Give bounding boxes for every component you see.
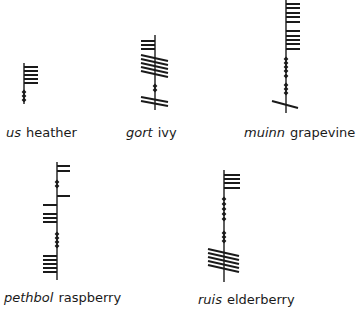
label-pethbol: pethbolraspberry <box>4 290 121 305</box>
ogham-name: ruis <box>198 292 222 307</box>
glyph-us-vowels <box>22 89 27 102</box>
gloss: raspberry <box>58 290 121 305</box>
glyph-ruis <box>208 170 240 282</box>
label-us: usheather <box>6 125 77 140</box>
glyph-us <box>24 63 38 104</box>
label-gort: gortivy <box>126 125 177 140</box>
gloss: heather <box>26 125 77 140</box>
label-muinn: muinngrapevine <box>244 125 355 140</box>
ogham-glyphs <box>0 0 356 315</box>
glyph-pethbol <box>43 162 70 280</box>
gloss: elderberry <box>227 292 295 307</box>
ogham-name: muinn <box>244 125 285 140</box>
glyph-ruis-vowels <box>222 196 227 243</box>
gloss: grapevine <box>290 125 355 140</box>
glyph-gort-vowels <box>153 83 158 92</box>
ogham-name: gort <box>126 125 153 140</box>
glyph-muinn-vowels <box>284 56 289 95</box>
ogham-name: pethbol <box>4 290 53 305</box>
ogham-name: us <box>6 125 21 140</box>
gloss: ivy <box>158 125 177 140</box>
label-ruis: ruiselderberry <box>198 292 295 307</box>
glyph-gort <box>141 35 168 110</box>
